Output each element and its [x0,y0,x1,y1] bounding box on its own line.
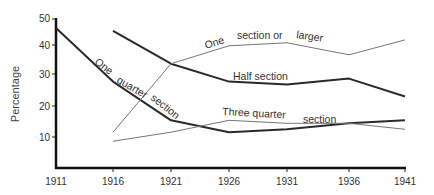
x-tick-labels: 1911 1916 1921 1926 1931 1936 1941 [45,176,416,187]
line-chart: Percentage 10 20 30 40 50 1911 1916 1921… [0,0,434,195]
x-tick-label: 1911 [45,176,67,187]
x-tick-label: 1926 [218,176,241,187]
y-tick-label: 40 [39,40,51,51]
x-tick-label: 1916 [102,176,125,187]
y-axis-title: Percentage [9,66,21,122]
label-one-section-2: section or [237,29,283,41]
y-tick-label: 50 [39,13,51,24]
x-tick-label: 1941 [394,176,417,187]
y-tick-label: 10 [39,132,51,143]
series-layer [56,28,405,141]
y-tick-labels: 10 20 30 40 50 [39,13,51,143]
y-tick-label: 30 [39,69,51,80]
x-tick-label: 1936 [338,176,361,187]
label-three-quarter-2: section [303,113,336,125]
label-three-quarter-1: Three quarter [222,105,287,120]
y-tick-label: 20 [39,101,51,112]
label-half-section: Half section [233,70,288,82]
x-tick-label: 1931 [276,176,299,187]
label-one-section-3: larger [296,28,325,44]
x-tick-label: 1921 [160,176,183,187]
